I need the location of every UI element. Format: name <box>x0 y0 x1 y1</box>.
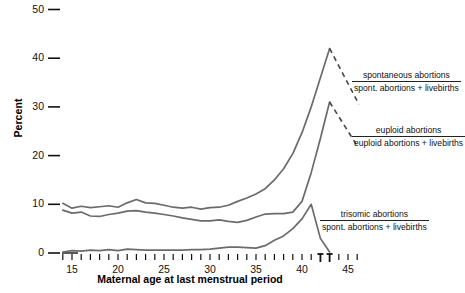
x-tick-label: 30 <box>198 263 222 275</box>
series-line-0 <box>63 48 330 209</box>
annotation-numerator: spontaneous abortions <box>352 70 461 81</box>
x-axis-tick-marks <box>63 254 357 262</box>
x-tick-label: 40 <box>290 263 314 275</box>
y-axis-title: Percent <box>12 88 24 148</box>
data-series-lines <box>63 48 330 252</box>
annotation-denominator: spont. abortions + livebirths <box>320 220 429 232</box>
x-tick-label: 20 <box>106 263 130 275</box>
series-line-2 <box>63 204 330 252</box>
series-line-1 <box>63 102 330 222</box>
x-tick-label: 15 <box>60 263 84 275</box>
annotation-euploid: euploid abortionseuploid abortions + liv… <box>352 125 465 148</box>
x-tick-label: 45 <box>336 263 360 275</box>
annotation-numerator: trisomic abortions <box>320 209 429 220</box>
annotation-spontaneous: spontaneous abortionsspont. abortions + … <box>352 70 461 93</box>
y-tick-label: 0 <box>18 246 44 258</box>
x-tick-label: 35 <box>244 263 268 275</box>
y-tick-label: 50 <box>18 3 44 15</box>
chart-container: Percent Maternal age at last menstrual p… <box>0 0 465 293</box>
x-tick-label: 25 <box>152 263 176 275</box>
y-tick-label: 20 <box>18 149 44 161</box>
annotation-denominator: euploid abortions + livebirths <box>352 136 465 148</box>
annotation-denominator: spont. abortions + livebirths <box>352 81 461 93</box>
y-axis-tick-marks <box>48 10 60 254</box>
annotation-trisomic: trisomic abortionsspont. abortions + liv… <box>320 209 429 232</box>
y-tick-label: 40 <box>18 51 44 63</box>
annotation-numerator: euploid abortions <box>352 125 465 136</box>
y-tick-label: 10 <box>18 197 44 209</box>
y-tick-label: 30 <box>18 100 44 112</box>
